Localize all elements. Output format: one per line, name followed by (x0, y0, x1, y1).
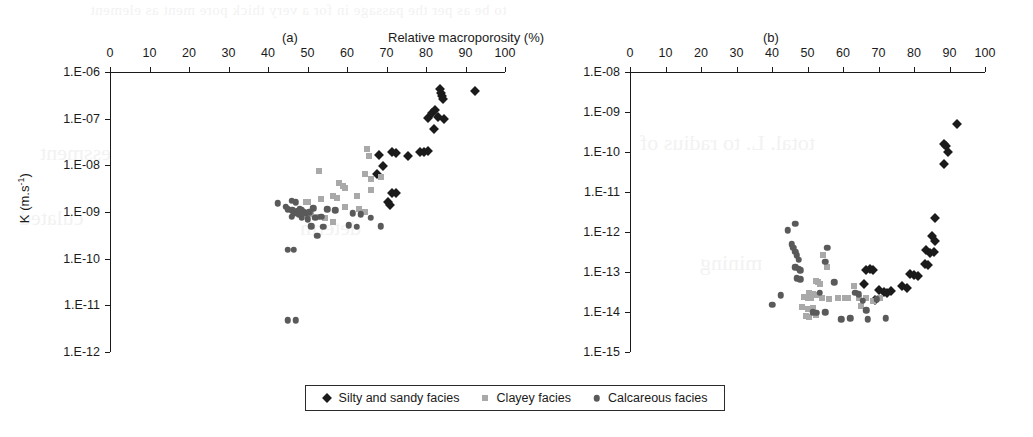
data-point (813, 310, 820, 317)
x-axis-tick (308, 67, 309, 72)
x-axis-line (630, 72, 985, 73)
data-point (358, 211, 365, 218)
data-point (354, 193, 360, 199)
data-point (838, 316, 845, 323)
x-axis-tick-label: 0 (627, 46, 634, 60)
data-point (856, 291, 863, 298)
data-point (778, 292, 785, 299)
x-axis-tick-label: 90 (943, 46, 957, 60)
data-point (822, 259, 829, 266)
x-axis-tick (189, 67, 190, 72)
x-axis-tick (387, 67, 388, 72)
data-point (332, 207, 339, 214)
y-axis-tick-label: 1.E-09 (42, 205, 100, 219)
data-point (822, 309, 829, 316)
y-axis-tick-label: 1.E-14 (562, 305, 620, 319)
y-axis-tick-label: 1.E-08 (42, 158, 100, 172)
x-axis-tick-label: 0 (107, 46, 114, 60)
data-point (310, 205, 317, 212)
data-point (859, 298, 866, 305)
data-point (285, 317, 292, 324)
data-point (930, 236, 940, 246)
data-point (824, 245, 831, 252)
x-axis-tick-label: 80 (907, 46, 921, 60)
data-point (769, 302, 776, 309)
scatter-panel-b: 01020304050607080901001.E-081.E-091.E-10… (513, 0, 1033, 437)
y-axis-tick-label: 1.E-10 (42, 252, 100, 266)
data-point (797, 267, 804, 274)
y-axis-tick (625, 272, 630, 273)
y-axis-tick (105, 259, 110, 260)
y-axis-tick (625, 352, 630, 353)
x-axis-tick-label: 50 (301, 46, 315, 60)
data-point (364, 146, 370, 152)
y-axis-tick (625, 72, 630, 73)
data-point (334, 195, 340, 201)
data-point (368, 187, 374, 193)
diamond-marker-icon (323, 394, 332, 403)
data-point (403, 151, 413, 161)
y-axis-tick-label: 1.E-12 (42, 345, 100, 359)
data-point (785, 227, 792, 234)
data-point (792, 221, 799, 228)
x-axis-tick (737, 67, 738, 72)
x-axis-tick (268, 67, 269, 72)
data-point (290, 247, 297, 254)
data-point (304, 216, 311, 223)
data-point (308, 223, 315, 230)
data-point (826, 296, 832, 302)
data-point (354, 224, 361, 231)
data-point (316, 168, 322, 174)
x-axis-tick-label: 20 (694, 46, 708, 60)
data-point (429, 124, 439, 134)
data-point (377, 223, 384, 230)
data-point (831, 279, 838, 286)
x-axis-tick (110, 67, 111, 72)
x-axis-tick (466, 67, 467, 72)
x-axis-tick-label: 40 (765, 46, 779, 60)
data-point (378, 174, 384, 180)
legend-label: Calcareous facies (608, 391, 707, 405)
data-point (845, 295, 851, 301)
x-axis-tick (985, 67, 986, 72)
data-point (835, 295, 841, 301)
y-axis-tick (105, 305, 110, 306)
x-axis-tick-label: 90 (459, 46, 473, 60)
data-point (470, 86, 480, 96)
data-point (275, 200, 282, 207)
data-point (318, 213, 325, 220)
x-axis-tick (150, 67, 151, 72)
data-point (324, 206, 331, 213)
data-point (288, 213, 295, 220)
x-axis-tick (505, 67, 506, 72)
y-axis-tick (105, 165, 110, 166)
x-axis-tick-label: 30 (222, 46, 236, 60)
x-axis-tick-label: 30 (730, 46, 744, 60)
data-point (873, 296, 880, 303)
data-point (820, 252, 826, 258)
y-axis-tick-label: 1.E-10 (562, 145, 620, 159)
y-axis-line (630, 72, 631, 352)
y-axis-tick (105, 212, 110, 213)
data-point (391, 148, 401, 158)
y-axis-tick (105, 119, 110, 120)
data-point (378, 161, 388, 171)
circle-marker-icon (592, 394, 601, 403)
y-axis-tick (625, 192, 630, 193)
y-axis-tick-label: 1.E-13 (562, 265, 620, 279)
x-axis-tick (879, 67, 880, 72)
data-point (795, 257, 802, 264)
x-axis-tick (914, 67, 915, 72)
y-axis-tick-label: 1.E-15 (562, 345, 620, 359)
data-point (851, 283, 857, 289)
y-axis-tick (105, 72, 110, 73)
data-point (292, 199, 299, 206)
x-axis-tick-label: 60 (836, 46, 850, 60)
data-point (824, 264, 830, 270)
x-axis-tick (950, 67, 951, 72)
x-axis-tick-label: 70 (872, 46, 886, 60)
data-point (350, 210, 357, 217)
y-axis-tick (625, 312, 630, 313)
data-point (366, 153, 372, 159)
data-point (318, 196, 324, 202)
